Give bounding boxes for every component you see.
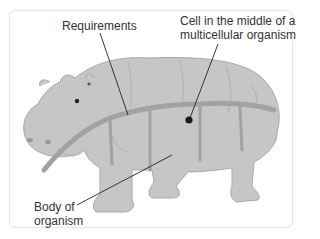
label-body-of-organism: Body of organism — [34, 200, 83, 228]
label-requirements: Requirements — [62, 19, 137, 33]
cell-dot-icon — [185, 116, 192, 123]
label-cell: Cell in the middle of a multicellular or… — [180, 14, 296, 42]
